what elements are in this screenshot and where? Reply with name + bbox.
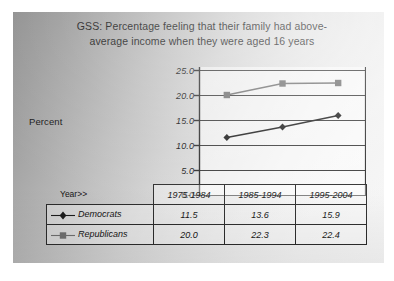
table-cell-value: 22.4 (296, 225, 367, 245)
table-cell-value: 15.9 (296, 205, 367, 225)
table-cell-value: 13.6 (225, 205, 296, 225)
diamond-marker-icon (51, 211, 75, 220)
square-marker-icon (51, 231, 75, 240)
table-row: Democrats 11.5 13.6 15.9 (47, 205, 367, 225)
series-label-democrats: Democrats (78, 209, 122, 219)
chart-panel: GSS: Percentage feeling that their famil… (13, 12, 384, 263)
series-label-republicans: Republicans (78, 229, 128, 239)
y-axis-tick-labels: 25.0 20.0 15.0 10.0 5.0 0.0 (156, 67, 194, 196)
y-tick-label: 10.0 (156, 141, 194, 151)
table-cell-value: 20.0 (154, 225, 225, 245)
data-table-region: 1975-1984 1985-1994 1995-2004 (46, 184, 366, 246)
y-axis-label: Percent (29, 116, 62, 127)
table-header-period: 1995-2004 (296, 185, 367, 205)
legend-row-democrats: Democrats (47, 205, 154, 225)
chart-title-line-2: average income when they were aged 16 ye… (37, 34, 367, 49)
table-header-row: 1975-1984 1985-1994 1995-2004 (47, 185, 367, 205)
y-tick-label: 20.0 (156, 91, 194, 101)
chart-title-line-1: GSS: Percentage feeling that their famil… (37, 19, 367, 34)
table-cell-value: 11.5 (154, 205, 225, 225)
table-header-period: 1975-1984 (154, 185, 225, 205)
table-header-period: 1985-1994 (225, 185, 296, 205)
table-row: Republicans 20.0 22.3 22.4 (47, 225, 367, 245)
slide-page: GSS: Percentage feeling that their famil… (0, 0, 394, 281)
plot-area (199, 67, 366, 196)
table-corner-cell (47, 185, 154, 205)
data-table: 1975-1984 1985-1994 1995-2004 (46, 184, 367, 245)
plot-region: 25.0 20.0 15.0 10.0 5.0 0.0 (156, 67, 366, 196)
chart-svg (193, 67, 366, 196)
chart-title: GSS: Percentage feeling that their famil… (37, 19, 367, 49)
y-tick-label: 15.0 (156, 116, 194, 126)
legend-row-republicans: Republicans (47, 225, 154, 245)
y-tick-label: 5.0 (156, 166, 194, 176)
table-cell-value: 22.3 (225, 225, 296, 245)
y-tick-label: 25.0 (156, 66, 194, 76)
